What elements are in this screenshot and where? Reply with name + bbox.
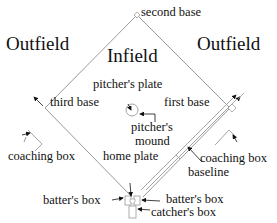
outfield-right-label: Outfield: [197, 34, 260, 53]
first-base-icon: [228, 104, 236, 112]
infield-label: Infield: [107, 46, 158, 65]
third-base-label: third base: [50, 96, 99, 109]
coaching-box-right-icon: [215, 130, 235, 145]
second-base-label: second base: [141, 6, 201, 19]
pitchers-plate-label: pitcher's plate: [93, 78, 162, 91]
pitchers-mound-icon: [126, 104, 138, 116]
pitchers-mound-label-1: pitcher's: [131, 121, 173, 134]
coaching-box-right-label: coaching box: [200, 152, 267, 165]
batters-box-left-label: batter's box: [43, 194, 100, 207]
first-base-label: first base: [164, 96, 209, 109]
coaching-box-left-label: coaching box: [8, 150, 75, 163]
baseline-label: baseline: [188, 166, 229, 179]
outfield-left-label: Outfield: [6, 34, 69, 53]
home-plate-label: home plate: [103, 150, 158, 163]
coaching-box-left-icon: [28, 130, 42, 151]
batters-box-right-label: batter's box: [166, 193, 223, 206]
catchers-box-label: catcher's box: [151, 206, 216, 219]
baseball-field-diagram: Outfield Outfield Infield second base th…: [0, 0, 277, 223]
pitchers-mound-label-2: mound: [135, 135, 170, 148]
